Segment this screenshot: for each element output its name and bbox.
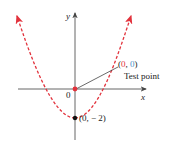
test-point-leader-line: [76, 67, 118, 89]
parabola-curve: [17, 16, 75, 118]
paren-close: ): [135, 59, 138, 69]
y-axis-label: y: [66, 12, 70, 21]
graph-figure: y x 0 (0, 0) Test point (0, − 2): [0, 0, 170, 148]
vertex-dot: [73, 116, 77, 120]
origin-label: 0: [66, 91, 71, 100]
test-point-coordinates: (0, 0): [118, 60, 138, 69]
test-point-label: Test point: [124, 72, 160, 81]
test-point-dot: [73, 87, 78, 92]
vertex-label: (0, − 2): [79, 114, 106, 123]
x-axis-label: x: [141, 93, 145, 102]
